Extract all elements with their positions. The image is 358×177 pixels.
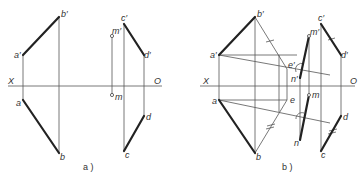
line-ab-top [23,100,59,153]
label-m: m [312,90,320,100]
axis-label-x: X [7,76,15,86]
label-a-prime: a′ [210,50,217,60]
line-cd-top [321,116,341,151]
label-a-prime: a′ [14,50,21,60]
caption-b: b ) [282,162,293,172]
label-b: b [60,152,65,162]
line-ab-front [23,17,59,55]
label-c-prime: c′ [121,13,128,23]
label-c: c [321,150,326,160]
label-b-prime: b′ [257,9,264,19]
label-m-prime: m′ [112,26,121,36]
line-e-b [255,100,287,153]
label-c-prime: c′ [318,13,325,23]
label-m-prime: m′ [310,27,319,37]
line-cd-front [124,24,144,55]
label-d-prime: d′ [144,50,151,60]
label-b-prime: b′ [61,9,68,19]
label-c: c [125,150,130,160]
line-a-extended [219,100,330,123]
label-d: d [146,112,152,122]
line-mn-front [300,36,309,78]
line-b-prime-e-prime [255,17,287,69]
line-cd-front [321,24,341,55]
axis-label-o: O [350,76,357,86]
point-m [110,93,113,96]
tick-mark [267,124,275,126]
figure-b-labels: X O a′ b′ a b e′ e m′ m n′ n c′ d′ c d b… [202,9,357,172]
line-a-prime-extended [219,55,330,75]
axis-label-o: O [154,76,161,86]
label-d-prime: d′ [341,50,348,60]
label-e-prime: e′ [288,60,295,70]
point-m [308,94,311,97]
label-d: d [343,112,349,122]
line-ab-top [219,100,255,153]
label-a: a [212,96,217,106]
line-cd-top [124,116,144,151]
orthographic-projection-diagram: X O a′ b′ a b m′ m c′ d′ c d a ) [0,0,358,177]
label-n-prime: n′ [291,74,298,84]
figure-b [200,17,355,153]
label-m: m [115,92,123,102]
line-mn-top [300,95,309,140]
axis-label-x: X [202,76,210,86]
line-ab-front [219,17,255,55]
label-n: n [294,138,299,148]
caption-a: a ) [83,162,94,172]
figure-a-labels: X O a′ b′ a b m′ m c′ d′ c d a ) [7,9,161,172]
label-b: b [256,152,261,162]
figure-a [8,17,162,153]
label-a: a [16,98,21,108]
label-e: e [290,95,295,105]
